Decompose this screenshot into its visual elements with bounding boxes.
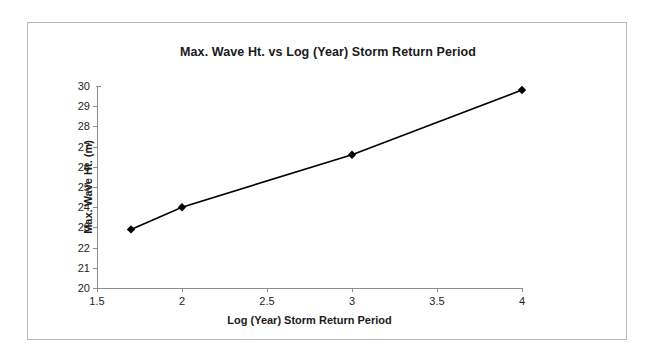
x-tick [182,288,183,292]
x-tick [522,288,523,292]
x-tick-label: 3.5 [429,295,444,307]
data-point [178,203,186,211]
series-line [131,90,522,229]
y-axis-title: Max. Wave Ht. (m) [82,140,94,234]
x-tick-label: 1.5 [89,295,104,307]
chart-figure: Max. Wave Ht. vs Log (Year) Storm Return… [0,0,654,358]
y-tick-label: 29 [78,100,90,112]
chart-frame: Max. Wave Ht. vs Log (Year) Storm Return… [27,22,627,340]
x-tick-label: 4 [519,295,525,307]
series-markers [127,86,526,234]
x-axis-line [97,288,522,289]
x-tick-label: 2.5 [259,295,274,307]
x-tick [437,288,438,292]
chart-title: Max. Wave Ht. vs Log (Year) Storm Return… [28,45,628,59]
plot-area: 2021222324252627282930 1.522.533.54 Log … [97,86,522,288]
y-tick-label: 22 [78,242,90,254]
y-tick-label: 30 [78,80,90,92]
x-axis-title: Log (Year) Storm Return Period [97,314,522,326]
data-point [348,150,356,158]
x-tick-label: 3 [349,295,355,307]
data-point [518,86,526,94]
y-tick-label: 21 [78,262,90,274]
x-tick [352,288,353,292]
x-tick [97,288,98,292]
data-series [97,86,522,288]
x-tick [267,288,268,292]
y-tick-label: 20 [78,282,90,294]
x-tick-label: 2 [179,295,185,307]
y-tick-label: 28 [78,120,90,132]
data-point [127,225,135,233]
